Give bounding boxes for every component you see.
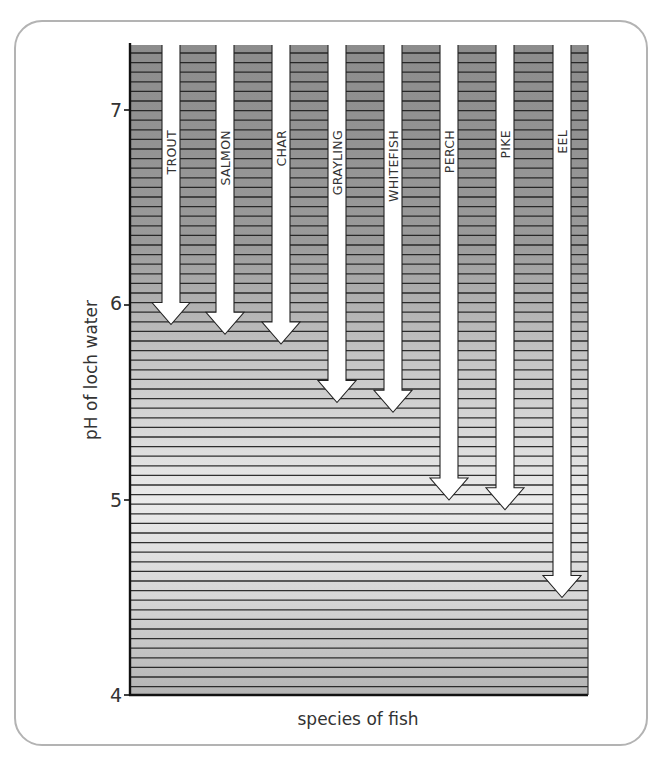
species-label-eel: EEL (555, 130, 570, 154)
species-label-trout: TROUT (164, 130, 179, 176)
species-label-grayling: GRAYLING (330, 130, 345, 195)
species-label-perch: PERCH (442, 130, 457, 173)
y-tick-label-5: 5 (110, 489, 122, 511)
y-tick-label-4: 4 (110, 684, 122, 706)
species-label-pike: PIKE (498, 130, 513, 159)
species-label-char: CHAR (274, 130, 289, 167)
y-axis-title: pH of loch water (81, 300, 101, 440)
species-label-salmon: SALMON (218, 130, 233, 185)
x-axis-title: species of fish (297, 709, 418, 729)
y-tick-label-7: 7 (110, 99, 122, 121)
chart: TROUTSALMONCHARGRAYLINGWHITEFISHPERCHPIK… (0, 0, 665, 760)
species-label-whitefish: WHITEFISH (386, 130, 401, 202)
y-tick-label-6: 6 (110, 292, 122, 314)
